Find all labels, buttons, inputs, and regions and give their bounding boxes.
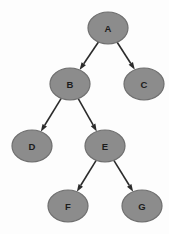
- graph-node-a[interactable]: A: [88, 12, 128, 44]
- graph-node-shape-f[interactable]: [48, 190, 88, 222]
- graph-edge-e-to-f: [81, 160, 96, 185]
- graph-node-shape-a[interactable]: [88, 12, 128, 44]
- graph-svg: ABCDEFG: [0, 0, 169, 234]
- graph-edge-b-to-e: [78, 99, 93, 125]
- graph-node-shape-b[interactable]: [50, 68, 90, 100]
- graph-node-b[interactable]: B: [50, 68, 90, 100]
- graph-node-e[interactable]: E: [85, 130, 125, 162]
- arrowhead-icon-a-to-c: [129, 62, 135, 70]
- graph-edge-b-to-d: [45, 98, 61, 125]
- arrowhead-icon-e-to-g: [127, 184, 133, 192]
- arrowhead-icon-e-to-f: [77, 184, 83, 192]
- arrowhead-icon-b-to-d: [41, 124, 47, 132]
- edge-layer: [41, 42, 135, 192]
- graph-edge-e-to-g: [114, 160, 129, 185]
- diagram-canvas: ABCDEFG: [0, 0, 169, 234]
- graph-node-d[interactable]: D: [12, 130, 52, 162]
- graph-node-shape-g[interactable]: [122, 190, 162, 222]
- graph-node-shape-e[interactable]: [85, 130, 125, 162]
- graph-edge-a-to-c: [117, 42, 131, 63]
- arrowhead-icon-a-to-b: [80, 62, 86, 70]
- graph-node-g[interactable]: G: [122, 190, 162, 222]
- graph-edge-a-to-b: [84, 42, 99, 64]
- graph-node-f[interactable]: F: [48, 190, 88, 222]
- graph-node-shape-d[interactable]: [12, 130, 52, 162]
- graph-node-c[interactable]: C: [124, 68, 164, 100]
- arrowhead-icon-b-to-e: [91, 124, 97, 132]
- graph-node-shape-c[interactable]: [124, 68, 164, 100]
